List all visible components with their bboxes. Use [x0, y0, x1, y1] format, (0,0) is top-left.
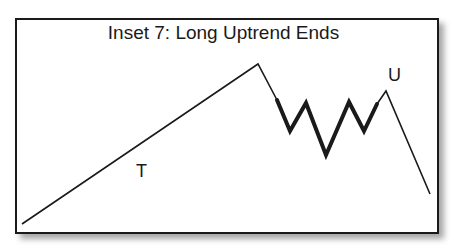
uptrend-line: [22, 64, 277, 224]
upthrust-label: U: [388, 65, 401, 85]
upthrust-and-decline-line: [377, 91, 430, 194]
price-diagram: T U: [0, 0, 459, 252]
trend-label: T: [136, 161, 147, 181]
trading-range-zigzag: [277, 100, 377, 155]
